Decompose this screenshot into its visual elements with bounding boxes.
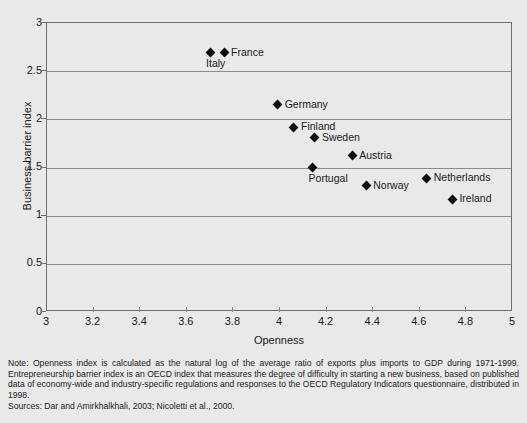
x-tick-mark [419, 307, 420, 312]
x-tick-label: 4.2 [318, 316, 333, 327]
x-tick-label: 4.6 [411, 316, 426, 327]
x-tick-label: 3 [43, 316, 49, 327]
x-tick-mark [372, 307, 373, 312]
x-tick-mark [186, 307, 187, 312]
footnote-block: Note: Openness index is calculated as th… [8, 358, 519, 412]
x-tick-label: 3.2 [85, 316, 100, 327]
x-tick-label: 4.4 [365, 316, 380, 327]
x-tick-label: 3.6 [178, 316, 193, 327]
x-tick-label: 4.8 [458, 316, 473, 327]
x-tick-label: 3.8 [225, 316, 240, 327]
x-tick-label: 4 [276, 316, 282, 327]
x-tick-mark [139, 307, 140, 312]
x-tick-mark [232, 307, 233, 312]
x-tick-mark [279, 307, 280, 312]
x-tick-mark [93, 307, 94, 312]
x-tick-mark [326, 307, 327, 312]
x-axis-title: Openness [46, 334, 512, 346]
footnote-sources: Sources: Dar and Amirkhalkhali, 2003; Ni… [8, 401, 519, 412]
x-tick-label: 5 [509, 316, 515, 327]
figure-container: ItalyFranceGermanyFinlandSwedenAustriaPo… [0, 0, 527, 423]
y-axis-title: Business barrier index [21, 66, 33, 246]
x-tick-label: 3.4 [132, 316, 147, 327]
footnote-note: Note: Openness index is calculated as th… [8, 358, 519, 400]
x-tick-mark [465, 307, 466, 312]
